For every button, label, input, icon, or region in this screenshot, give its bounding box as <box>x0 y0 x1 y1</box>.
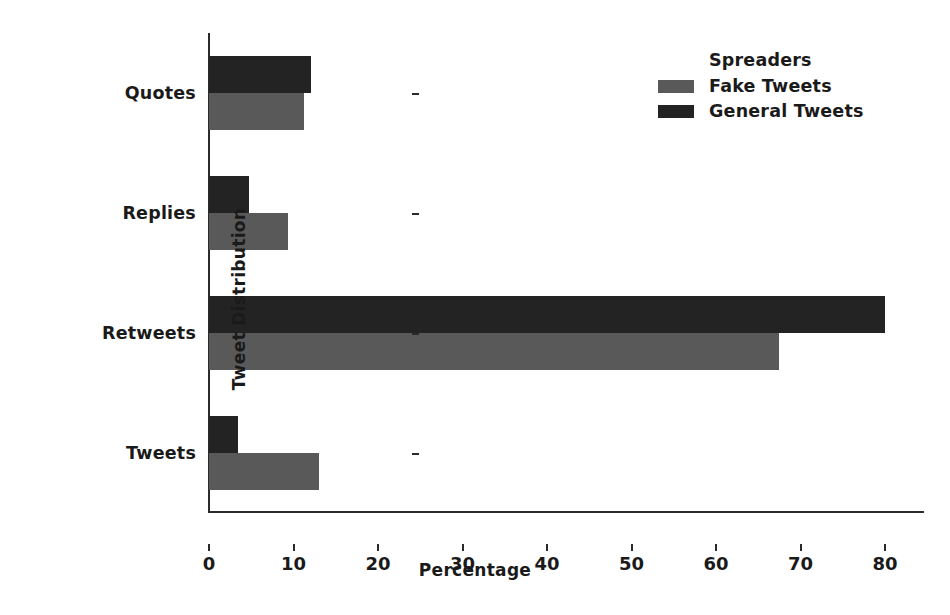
x-tick-mark-50 <box>631 544 633 551</box>
y-tick-label-replies: Replies <box>6 203 196 223</box>
legend-title: Spreaders <box>709 50 928 70</box>
legend-swatch-fake-tweets <box>658 80 694 93</box>
x-tick-mark-0 <box>208 544 210 551</box>
y-tick-label-tweets: Tweets <box>6 443 196 463</box>
y-tick-mark-tweets <box>412 453 419 455</box>
bar-quotes-general <box>209 56 311 93</box>
legend: Spreaders Fake Tweets General Tweets <box>658 50 928 126</box>
bar-retweets-fake <box>209 333 779 370</box>
x-tick-mark-60 <box>715 544 717 551</box>
legend-label-general-tweets: General Tweets <box>709 101 864 121</box>
y-tick-label-retweets: Retweets <box>6 323 196 343</box>
x-tick-mark-80 <box>884 544 886 551</box>
x-axis-title: Percentage <box>0 560 950 580</box>
y-axis-title: Tweet Distribution <box>229 129 249 469</box>
x-tick-mark-70 <box>800 544 802 551</box>
legend-label-fake-tweets: Fake Tweets <box>709 76 832 96</box>
x-tick-mark-40 <box>546 544 548 551</box>
bar-quotes-fake <box>209 93 304 130</box>
bar-retweets-general <box>209 296 885 333</box>
legend-swatch-general-tweets <box>658 105 694 118</box>
y-tick-mark-replies <box>412 213 419 215</box>
x-tick-mark-20 <box>377 544 379 551</box>
x-tick-mark-10 <box>293 544 295 551</box>
chart-figure: 0 10 20 30 40 50 60 70 80 Quotes Replies… <box>0 0 950 615</box>
y-tick-mark-retweets <box>412 333 419 335</box>
legend-entry-general-tweets: General Tweets <box>658 101 928 121</box>
x-tick-mark-30 <box>462 544 464 551</box>
bar-tweets-fake <box>209 453 319 490</box>
legend-entry-fake-tweets: Fake Tweets <box>658 76 928 96</box>
y-tick-mark-quotes <box>412 93 419 95</box>
x-axis-spine <box>208 511 924 513</box>
y-tick-label-quotes: Quotes <box>6 83 196 103</box>
